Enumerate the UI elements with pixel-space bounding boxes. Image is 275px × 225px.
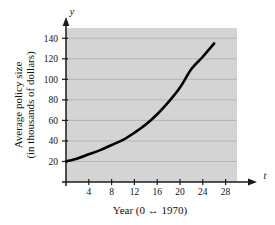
x-tick-label: 12 xyxy=(130,187,140,197)
y-axis-title-line1: Average policy size xyxy=(12,62,24,149)
x-axis-symbol: t xyxy=(264,170,267,181)
y-axis-title-line2: (in thousands of dollars) xyxy=(24,51,37,159)
x-tick-label: 28 xyxy=(221,187,231,197)
chart-figure: 20406080100120140 481216202428 y t Year … xyxy=(0,0,275,225)
exponential-growth-chart: 20406080100120140 481216202428 y t Year … xyxy=(0,0,275,225)
y-tick-label: 20 xyxy=(49,157,59,167)
x-tick-label: 24 xyxy=(198,187,208,197)
x-axis-tick-labels: 481216202428 xyxy=(86,187,230,197)
x-axis-title: Year (0 ↔ 1970) xyxy=(113,204,188,217)
x-tick-label: 8 xyxy=(109,187,114,197)
x-tick-label: 16 xyxy=(152,187,162,197)
y-tick-label: 140 xyxy=(44,34,59,44)
x-tick-label: 20 xyxy=(175,187,185,197)
y-tick-label: 80 xyxy=(49,95,59,105)
y-tick-label: 120 xyxy=(44,54,59,64)
y-axis-tick-labels: 20406080100120140 xyxy=(44,34,59,167)
y-tick-label: 100 xyxy=(44,75,59,85)
y-tick-label: 40 xyxy=(49,136,59,146)
y-tick-label: 60 xyxy=(49,116,59,126)
plot-area-background xyxy=(66,28,237,182)
y-axis-symbol: y xyxy=(69,6,75,17)
x-tick-label: 4 xyxy=(86,187,91,197)
